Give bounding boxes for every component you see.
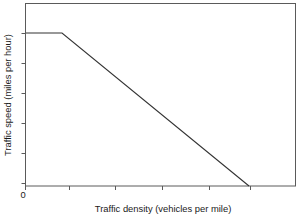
x-axis-origin-label: 0 [20, 189, 25, 200]
speed-density-line [26, 33, 249, 186]
y-axis-title: Traffic speed (miles per hour) [2, 34, 13, 156]
plot-border [26, 4, 296, 187]
plot-frame [26, 4, 296, 187]
data-series-speed-density [26, 33, 249, 186]
x-axis-title: Traffic density (vehicles per mile) [95, 203, 232, 214]
y-axis-ticks [22, 34, 26, 184]
x-axis-ticks [26, 186, 251, 190]
chart-figure: 0 Traffic density (vehicles per mile) Tr… [0, 0, 307, 219]
chart-canvas: 0 Traffic density (vehicles per mile) Tr… [0, 0, 307, 219]
